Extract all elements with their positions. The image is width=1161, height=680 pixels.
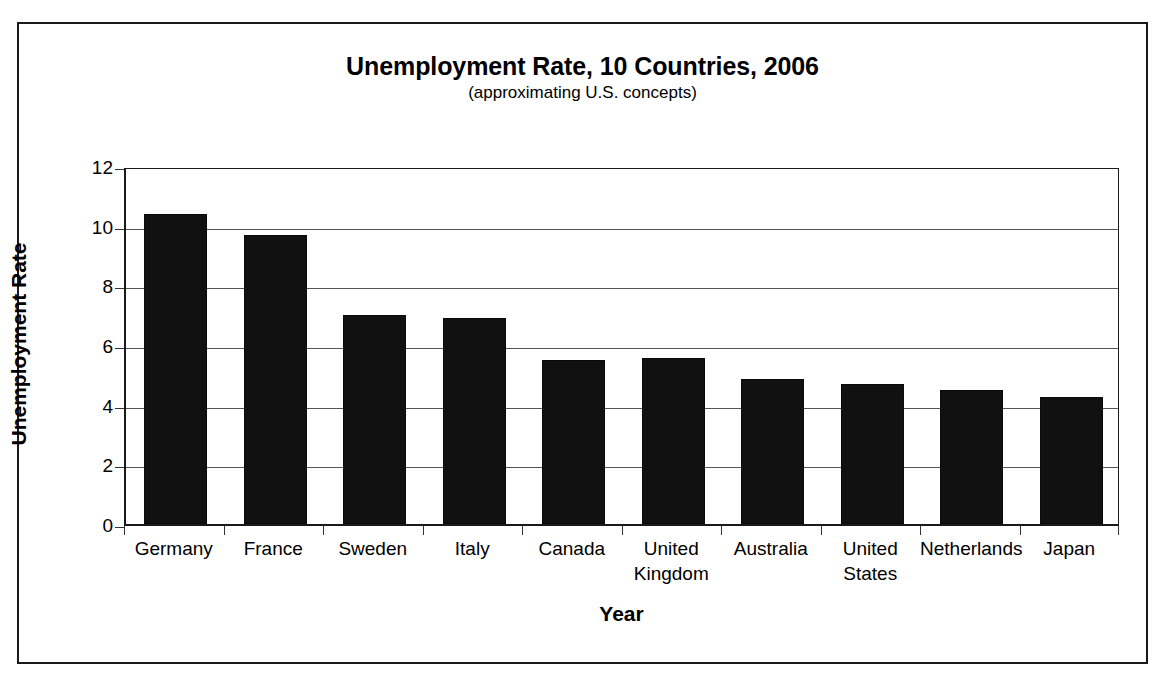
y-axis-tick-label: 0 — [83, 516, 113, 535]
bar — [144, 214, 207, 524]
bar — [443, 318, 506, 524]
x-axis-tick — [522, 526, 523, 535]
x-axis-category-labels: GermanyFranceSwedenItalyCanadaUnited Kin… — [124, 536, 1119, 598]
x-axis-tick-marks — [124, 526, 1119, 536]
x-axis-tick — [920, 526, 921, 535]
x-axis-category-label: United States — [821, 536, 921, 586]
chart-figure-frame: Unemployment Rate, 10 Countries, 2006 (a… — [17, 22, 1148, 664]
x-axis-category-label: Italy — [423, 536, 523, 561]
bar — [940, 390, 1003, 524]
bar — [741, 379, 804, 524]
x-axis-tick — [224, 526, 225, 535]
bar — [542, 360, 605, 524]
bar — [244, 235, 307, 524]
x-axis-category-label: Germany — [124, 536, 224, 561]
y-axis-tick-label: 4 — [83, 397, 113, 416]
y-axis-tick — [115, 229, 124, 230]
y-axis-tick — [115, 348, 124, 349]
x-axis-tick — [821, 526, 822, 535]
x-axis-tick — [323, 526, 324, 535]
x-axis-tick — [721, 526, 722, 535]
bar — [841, 384, 904, 524]
title-block: Unemployment Rate, 10 Countries, 2006 (a… — [19, 52, 1146, 104]
x-axis-category-label: United Kingdom — [622, 536, 722, 586]
x-axis-tick — [423, 526, 424, 535]
x-axis-tick — [1118, 526, 1119, 535]
y-axis-tick — [115, 169, 124, 170]
y-axis-tick-label: 10 — [83, 218, 113, 237]
y-axis-tick-label: 8 — [83, 277, 113, 296]
x-axis-category-label: Sweden — [323, 536, 423, 561]
chart-subtitle: (approximating U.S. concepts) — [19, 82, 1146, 104]
y-axis-tick — [115, 467, 124, 468]
bar — [1040, 397, 1103, 524]
x-axis-tick — [622, 526, 623, 535]
y-axis-tick — [115, 288, 124, 289]
x-axis-title: Year — [124, 602, 1119, 626]
y-axis-title: Unemployment Rate — [7, 194, 31, 494]
chart-title: Unemployment Rate, 10 Countries, 2006 — [19, 52, 1146, 81]
x-axis-tick — [1020, 526, 1021, 535]
y-axis-tick-label: 2 — [83, 456, 113, 475]
bar — [343, 315, 406, 524]
x-axis-category-label: Japan — [1020, 536, 1120, 561]
y-axis-tick-label: 6 — [83, 337, 113, 356]
x-axis-category-label: Australia — [721, 536, 821, 561]
bar-series — [126, 169, 1118, 524]
y-axis-tick-labels: 024681012 — [77, 168, 113, 526]
x-axis-tick — [124, 526, 125, 535]
plot-area — [124, 168, 1119, 526]
bar — [642, 358, 705, 524]
y-axis-tick — [115, 408, 124, 409]
y-axis-tick-label: 12 — [83, 158, 113, 177]
x-axis-category-label: Netherlands — [920, 536, 1020, 561]
x-axis-category-label: Canada — [522, 536, 622, 561]
y-axis-tick — [115, 527, 124, 528]
x-axis-category-label: France — [224, 536, 324, 561]
